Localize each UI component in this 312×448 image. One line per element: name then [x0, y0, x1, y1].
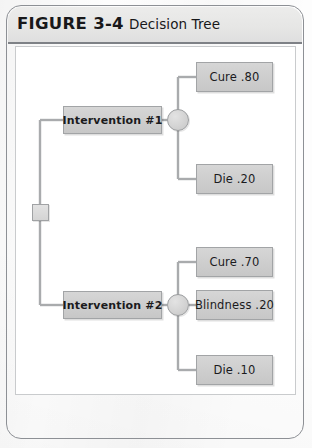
outcome-box-die-20[interactable]: Die .20 — [196, 164, 273, 194]
figure-number-label: FIGURE 3-4 — [17, 14, 124, 33]
root-decision-node[interactable] — [32, 204, 49, 221]
outcome-box-die-20-label: Die .20 — [213, 172, 255, 186]
outcome-box-cure-80[interactable]: Cure .80 — [196, 62, 273, 92]
decision-box-intervention-1-label: Intervention #1 — [63, 114, 163, 127]
decision-box-intervention-2[interactable]: Intervention #2 — [63, 291, 162, 319]
outcome-box-cure-80-label: Cure .80 — [209, 70, 259, 84]
outcome-box-cure-70-label: Cure .70 — [209, 255, 259, 269]
outcome-box-blindness-20-label: Blindness .20 — [195, 298, 274, 312]
chance-node-2[interactable] — [167, 294, 189, 316]
decision-box-intervention-1[interactable]: Intervention #1 — [63, 106, 162, 134]
diagram-panel — [15, 46, 296, 395]
decision-box-intervention-2-label: Intervention #2 — [63, 299, 163, 312]
figure-title-text: Decision Tree — [129, 16, 220, 32]
outcome-box-cure-70[interactable]: Cure .70 — [196, 247, 273, 277]
chance-node-1[interactable] — [167, 109, 189, 131]
header-divider-rule — [8, 42, 302, 44]
outcome-box-die-10-label: Die .10 — [213, 363, 255, 377]
figure-page: FIGURE 3-4Decision Tree — [0, 0, 312, 448]
outcome-box-die-10[interactable]: Die .10 — [196, 355, 273, 385]
outcome-box-blindness-20[interactable]: Blindness .20 — [196, 290, 273, 320]
figure-caption: FIGURE 3-4Decision Tree — [17, 14, 220, 34]
